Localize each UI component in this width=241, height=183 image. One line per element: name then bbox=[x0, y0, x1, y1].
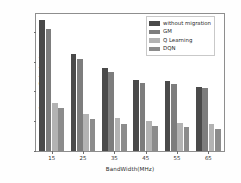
chart-figure: Average Delay(ms) 020406080 152535455565… bbox=[0, 0, 241, 183]
x-tick-mark bbox=[177, 151, 178, 154]
x-tick-mark bbox=[208, 151, 209, 154]
bar bbox=[121, 124, 127, 151]
bar bbox=[133, 80, 139, 151]
plot-area: Average Delay(ms) 020406080 152535455565… bbox=[35, 13, 225, 152]
bar bbox=[171, 84, 177, 151]
bar bbox=[52, 103, 58, 151]
bar bbox=[58, 108, 64, 151]
legend-item[interactable]: without migration bbox=[149, 19, 211, 28]
bar bbox=[83, 114, 89, 151]
bar bbox=[115, 118, 121, 151]
x-tick-mark bbox=[146, 151, 147, 154]
bar bbox=[140, 83, 146, 152]
x-tick-mark bbox=[83, 151, 84, 154]
bar bbox=[90, 119, 96, 151]
bar bbox=[108, 72, 114, 151]
legend-swatch-icon bbox=[149, 47, 160, 52]
bar bbox=[177, 123, 183, 151]
bar bbox=[102, 68, 108, 151]
legend-label: DQN bbox=[163, 46, 175, 51]
y-tick-mark bbox=[34, 151, 37, 152]
bar bbox=[209, 124, 215, 151]
bar bbox=[152, 126, 158, 151]
bar bbox=[215, 129, 221, 151]
legend-item[interactable]: DQN bbox=[149, 45, 211, 54]
bar bbox=[146, 121, 152, 151]
bar bbox=[46, 29, 52, 151]
x-tick-mark bbox=[114, 151, 115, 154]
bar bbox=[202, 88, 208, 151]
legend-swatch-icon bbox=[149, 30, 160, 35]
legend-item[interactable]: GM bbox=[149, 28, 211, 37]
legend-label: GM bbox=[163, 29, 172, 34]
legend-label: without migration bbox=[163, 21, 211, 26]
legend-swatch-icon bbox=[149, 38, 160, 43]
chart-legend: without migrationGMQ LearningDQN bbox=[146, 16, 215, 56]
bar bbox=[77, 59, 83, 151]
legend-label: Q Learning bbox=[163, 38, 192, 43]
bar bbox=[196, 87, 202, 151]
legend-swatch-icon bbox=[149, 21, 160, 26]
x-tick-label: 65 bbox=[190, 156, 226, 161]
bar bbox=[165, 81, 171, 151]
bar bbox=[39, 20, 45, 151]
legend-item[interactable]: Q Learning bbox=[149, 36, 211, 45]
bar bbox=[71, 54, 77, 151]
bar bbox=[184, 127, 190, 151]
x-tick-mark bbox=[52, 151, 53, 154]
x-axis-label: BandWidth(MHz) bbox=[36, 166, 224, 172]
